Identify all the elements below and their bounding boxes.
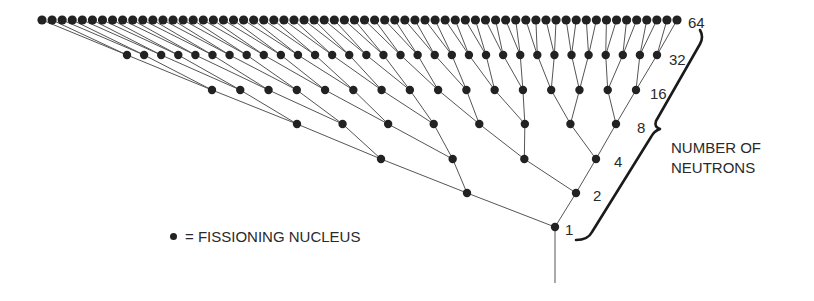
neutron-path [418, 55, 438, 90]
neutron-path [479, 124, 524, 159]
neutron-path [608, 90, 616, 124]
neutron-path [203, 20, 264, 55]
fissioning-nucleus-icon [299, 15, 308, 24]
neutron-path [546, 20, 554, 55]
neutron-path [324, 20, 366, 55]
fissioning-nucleus-icon [619, 51, 627, 59]
fissioning-nucleus-icon [396, 51, 404, 59]
fissioning-nucleus-icon [501, 15, 510, 24]
legend-text: = FISSIONING NUCLEUS [185, 228, 360, 245]
fissioning-nucleus-icon [562, 15, 571, 24]
neutron-path [572, 55, 580, 90]
neutron-path [298, 55, 353, 90]
neutron-path [153, 20, 213, 55]
neutron-path [589, 20, 597, 55]
fissioning-nucleus-icon [434, 86, 442, 94]
fissioning-nucleus-icon [547, 86, 555, 94]
fissioning-nucleus-icon [572, 15, 581, 24]
neutron-path [366, 55, 410, 90]
fissioning-nucleus-icon [400, 15, 409, 24]
number-of-neutrons-caption: NUMBER OF NEUTRONS [671, 138, 761, 178]
level-label-16: 16 [650, 86, 667, 101]
level-label-1: 1 [565, 222, 573, 237]
neutron-path [410, 90, 434, 124]
fissioning-nucleus-icon [550, 51, 558, 59]
fissioning-nucleus-icon [68, 15, 77, 24]
fissioning-nucleus-icon [379, 51, 387, 59]
fissioning-nucleus-icon [390, 15, 399, 24]
fissioning-nucleus-icon [225, 51, 233, 59]
fissioning-nucleus-icon [531, 15, 540, 24]
fissioning-nucleus-icon [362, 51, 370, 59]
fissioning-nucleus-icon [260, 51, 268, 59]
fissioning-nucleus-icon [249, 15, 258, 24]
fissioning-nucleus-icon [328, 51, 336, 59]
fissioning-nucleus-icon [311, 51, 319, 59]
neutron-path [537, 55, 551, 90]
neutron-path [586, 20, 588, 55]
fissioning-nucleus-icon [123, 51, 131, 59]
fissioning-nucleus-icon [128, 15, 137, 24]
fissioning-nucleus-icon [377, 155, 385, 163]
caption-line-2: NEUTRONS [671, 158, 761, 178]
fissioning-nucleus-icon [632, 86, 640, 94]
fissioning-nucleus-icon [277, 51, 285, 59]
neutron-path [524, 159, 576, 193]
fissioning-nucleus-icon [521, 120, 529, 128]
legend: = FISSIONING NUCLEUS [170, 228, 360, 245]
fissioning-nucleus-icon [490, 86, 498, 94]
fissioning-nucleus-icon [612, 15, 621, 24]
fissioning-nucleus-icon [209, 15, 218, 24]
neutron-path [485, 20, 503, 55]
fissioning-nucleus-icon [475, 120, 483, 128]
fissioning-nucleus-icon [259, 15, 268, 24]
fissioning-nucleus-icon [541, 15, 550, 24]
fissioning-nucleus-icon [582, 15, 591, 24]
fissioning-nucleus-icon [662, 15, 671, 24]
fissioning-nucleus-icon [491, 15, 500, 24]
fissioning-nucleus-icon [533, 51, 541, 59]
fissioning-nucleus-icon [236, 86, 244, 94]
fissioning-nucleus-icon [632, 15, 641, 24]
fissioning-nucleus-icon [551, 15, 560, 24]
fissioning-nucleus-icon [461, 15, 470, 24]
neutron-path [640, 20, 657, 55]
fissioning-nucleus-icon [321, 86, 329, 94]
fissioning-nucleus-icon [463, 189, 471, 197]
neutron-path [657, 20, 677, 55]
neutron-path [606, 20, 617, 55]
neutron-path [596, 124, 616, 159]
fissioning-nucleus-icon [370, 15, 379, 24]
fissioning-nucleus-icon [108, 15, 117, 24]
neutron-path [382, 90, 434, 124]
neutron-path [640, 20, 647, 55]
fissioning-nucleus-icon [481, 15, 490, 24]
neutron-path [385, 20, 418, 55]
fissioning-nucleus-icon [168, 15, 177, 24]
fissioning-nucleus-icon [602, 15, 611, 24]
neutron-path [133, 20, 196, 55]
neutron-path [365, 20, 401, 55]
neutron-path [297, 90, 343, 124]
fissioning-nucleus-icon [465, 51, 473, 59]
fissioning-nucleus-icon [420, 15, 429, 24]
fissioning-nucleus-icon [174, 51, 182, 59]
fissioning-nucleus-icon [140, 51, 148, 59]
fissioning-nucleus-icon [430, 15, 439, 24]
fissioning-nucleus-icon [592, 155, 600, 163]
fissioning-nucleus-icon [320, 15, 329, 24]
fissioning-nucleus-icon [269, 15, 278, 24]
fissioning-nucleus-icon [380, 15, 389, 24]
neutron-path [405, 20, 435, 55]
fissioning-nucleus-icon [462, 86, 470, 94]
caption-line-1: NUMBER OF [671, 138, 761, 158]
neutron-path [234, 20, 281, 55]
neutron-path [570, 124, 596, 159]
fissioning-nucleus-icon [482, 51, 490, 59]
fissioning-nucleus-icon [430, 120, 438, 128]
fissioning-nucleus-icon [592, 15, 601, 24]
neutron-path [570, 90, 579, 124]
neutron-path [572, 20, 577, 55]
fissioning-nucleus-icon [521, 15, 530, 24]
fissioning-nucleus-icon [88, 15, 97, 24]
